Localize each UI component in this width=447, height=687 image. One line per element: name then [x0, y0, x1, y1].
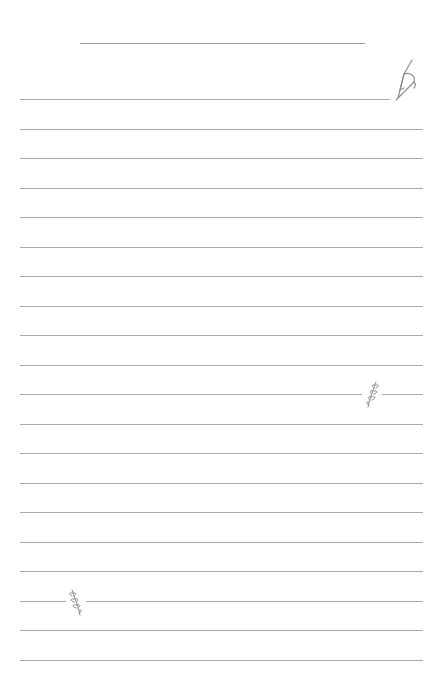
ruled-line: [20, 571, 423, 572]
ruled-line: [20, 453, 423, 454]
ruled-line: [20, 158, 423, 159]
ruled-line: [20, 188, 423, 189]
title-line: [80, 43, 365, 44]
ruled-line: [20, 247, 423, 248]
fountain-pen-icon: [390, 58, 426, 104]
ruled-line: [20, 306, 423, 307]
ruled-line: [20, 660, 423, 661]
ruled-line: [20, 512, 423, 513]
leaf-sprig-icon: [362, 380, 382, 408]
ruled-line: [20, 542, 423, 543]
ruled-line: [20, 276, 423, 277]
ruled-line: [20, 365, 423, 366]
ruled-line: [20, 424, 423, 425]
ruled-line: [20, 630, 423, 631]
ruled-line: [20, 99, 423, 100]
ruled-line: [20, 483, 423, 484]
leaf-sprig-icon: [66, 588, 86, 616]
ruled-line: [20, 129, 423, 130]
ruled-line: [20, 217, 423, 218]
ruled-line: [20, 335, 423, 336]
